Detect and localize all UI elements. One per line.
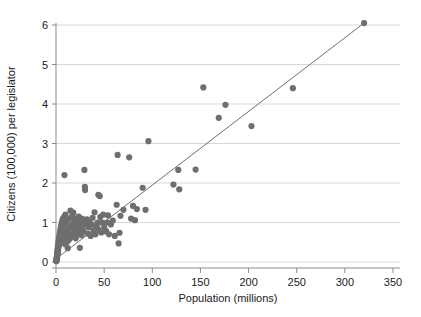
y-tick-label: 2 (42, 177, 48, 189)
y-axis-ticks: 0123456 (42, 19, 56, 268)
y-axis-title: Citizens (100,000) per legislator (5, 66, 17, 222)
data-point (140, 185, 146, 191)
y-tick-label: 4 (42, 98, 48, 110)
data-point (222, 102, 228, 108)
x-tick-label: 100 (143, 276, 161, 288)
data-point (82, 187, 88, 193)
data-point (65, 245, 71, 251)
data-point (120, 207, 126, 213)
data-point (170, 181, 176, 187)
x-tick-label: 200 (239, 276, 257, 288)
x-tick-label: 250 (288, 276, 306, 288)
data-point (70, 210, 76, 216)
data-point (126, 154, 132, 160)
data-point (142, 207, 148, 213)
x-tick-label: 150 (191, 276, 209, 288)
x-axis-title: Population (millions) (178, 292, 277, 304)
data-point (91, 209, 97, 215)
data-point (89, 215, 95, 221)
plot-svg: 050100150200250300350 0123456 Population… (0, 0, 421, 317)
data-point (97, 193, 103, 199)
data-point (61, 172, 67, 178)
data-point (200, 84, 206, 90)
x-tick-label: 300 (336, 276, 354, 288)
data-point (115, 240, 121, 246)
x-tick-label: 50 (98, 276, 110, 288)
data-point (290, 85, 296, 91)
data-point (77, 245, 83, 251)
data-point (81, 167, 87, 173)
data-point (193, 166, 199, 172)
data-point (117, 213, 123, 219)
data-point (106, 231, 112, 237)
scatter-chart: 050100150200250300350 0123456 Population… (0, 0, 421, 317)
data-point (115, 152, 121, 158)
data-point (134, 206, 140, 212)
data-point (116, 230, 122, 236)
x-tick-label: 350 (384, 276, 402, 288)
data-point (145, 138, 151, 144)
y-tick-label: 1 (42, 217, 48, 229)
x-tick-label: 0 (53, 276, 59, 288)
data-point (361, 20, 367, 26)
y-tick-label: 6 (42, 19, 48, 31)
y-tick-label: 5 (42, 59, 48, 71)
y-tick-label: 0 (42, 256, 48, 268)
data-point (110, 217, 116, 223)
data-point (132, 217, 138, 223)
data-point (176, 186, 182, 192)
x-axis-ticks: 050100150200250300350 (53, 268, 402, 288)
data-point (248, 123, 254, 129)
data-point (216, 115, 222, 121)
gridlines (56, 25, 400, 262)
data-point (105, 212, 111, 218)
data-point (114, 202, 120, 208)
y-tick-label: 3 (42, 138, 48, 150)
data-point (175, 167, 181, 173)
